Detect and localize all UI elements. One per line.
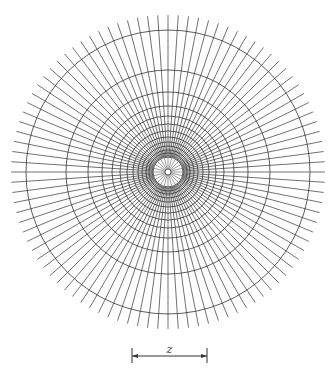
radial-ray (178, 185, 264, 297)
core-spoke (171, 173, 183, 176)
scale-bar-right-arrow (201, 354, 207, 358)
core-spoke (154, 173, 166, 176)
radial-ray (90, 36, 161, 158)
core-spoke (164, 158, 167, 170)
radial-ray (172, 20, 208, 156)
radial-ray (72, 185, 158, 297)
radial-ray (183, 131, 319, 167)
radial-ray (11, 173, 152, 182)
core-spoke (154, 168, 166, 171)
radial-ray (32, 94, 154, 165)
scale-bar-label: z (166, 343, 173, 356)
radial-ray (16, 131, 152, 167)
radial-ray (43, 76, 155, 162)
radial-ray (57, 61, 157, 161)
radial-ray (16, 176, 152, 212)
radial-ray (176, 186, 247, 308)
scale-bar: z (132, 343, 207, 363)
radial-ray (11, 162, 152, 171)
ring (165, 169, 171, 175)
radial-ray (158, 188, 167, 329)
radial-ray (158, 15, 167, 156)
radial-rays (11, 15, 325, 329)
radial-ray (171, 188, 199, 326)
radial-ray (169, 188, 178, 329)
polar-grid-figure: z (0, 0, 329, 373)
radial-ray (137, 188, 165, 326)
radial-ray (172, 187, 208, 323)
radial-ray (43, 182, 155, 268)
radial-ray (32, 180, 154, 251)
radial-ray (182, 180, 304, 251)
radial-ray (14, 175, 152, 203)
scale-bar-left-arrow (132, 354, 138, 358)
core-spoke (164, 175, 167, 187)
radial-ray (181, 76, 293, 162)
radial-ray (179, 183, 279, 283)
radial-ray (90, 186, 161, 308)
radial-ray (176, 36, 247, 158)
radial-ray (169, 15, 178, 156)
radial-ray (127, 20, 163, 156)
radial-ray (127, 187, 163, 323)
radial-ray (178, 47, 264, 159)
core-spoke (169, 158, 172, 170)
radial-ray (184, 141, 322, 169)
radial-ray (72, 47, 158, 159)
radial-ray (14, 141, 152, 169)
radial-ray (57, 183, 157, 283)
radial-ray (184, 173, 325, 182)
core-spokes (153, 157, 183, 187)
radial-ray (137, 18, 165, 156)
radial-ray (181, 182, 293, 268)
radial-ray (184, 175, 322, 203)
radial-ray (171, 18, 199, 156)
radial-ray (184, 162, 325, 171)
radial-ray (182, 94, 304, 165)
core-spoke (169, 175, 172, 187)
radial-ray (179, 61, 279, 161)
radial-ray (183, 176, 319, 212)
core-spoke (171, 168, 183, 171)
